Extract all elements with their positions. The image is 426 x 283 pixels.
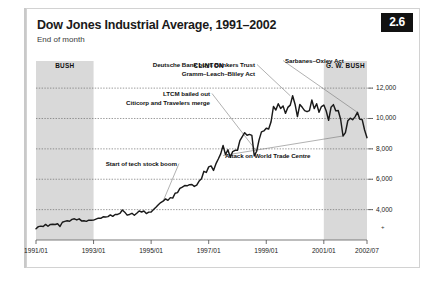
annotation-gramm-leach-bliley: Gramm–Leach–Bliley Act <box>27 70 255 77</box>
annotation-world-trade-centre: Attack on World Trade Centre <box>225 152 310 159</box>
x-tick-label: 1999/01 <box>246 247 286 254</box>
x-tick-label: 1995/01 <box>131 247 171 254</box>
y-tick-label: 6,000 <box>376 175 393 182</box>
figure-number-badge: 2.6 <box>381 13 413 32</box>
y-tick-label: 4,000 <box>376 206 393 213</box>
figure-panel: 2.6 Dow Jones Industrial Average, 1991–2… <box>26 8 420 268</box>
x-tick-label: 2001/01 <box>304 247 344 254</box>
figure-subtitle: End of month <box>37 35 85 44</box>
x-tick-label: 1997/01 <box>189 247 229 254</box>
annotation-citicorp-travelers: Citicorp and Travelers merge <box>27 99 210 106</box>
annotation-deutsche-bank: Deutsche Bank buys Bankers Trust <box>27 61 255 68</box>
annotation-sarbanes-oxley: Sarbanes–Oxley Act <box>285 57 344 64</box>
y-tick-label: 8,000 <box>376 145 393 152</box>
chart-plot-area: + BUSH CLINTON G. W. BUSH Deutsche Bank … <box>27 53 421 269</box>
x-tick-label: 2002/07 <box>347 247 387 254</box>
x-tick-label: 1993/01 <box>74 247 114 254</box>
page-title: Dow Jones Industrial Average, 1991–2002 <box>37 18 276 32</box>
svg-text:+: + <box>381 224 385 230</box>
annotation-tech-stock-boom: Start of tech stock boom <box>27 160 177 167</box>
annotation-ltcm: LTCM bailed out <box>27 90 210 97</box>
y-tick-label: 12,000 <box>376 84 396 91</box>
x-axis-tick-marks <box>36 240 367 244</box>
y-tick-label: 10,000 <box>376 114 396 121</box>
x-tick-label: 1991/01 <box>16 247 56 254</box>
